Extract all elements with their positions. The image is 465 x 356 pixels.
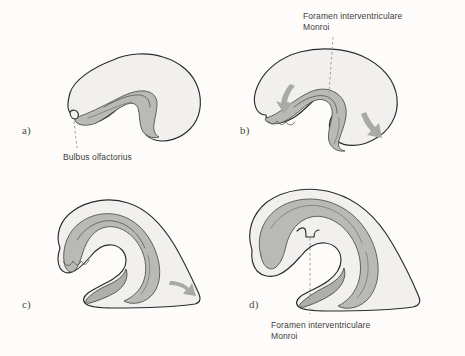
panel-letter-a: a) bbox=[22, 124, 31, 136]
figure-canvas bbox=[0, 0, 465, 356]
panel-a-olfactory-bulb bbox=[70, 110, 78, 119]
annotation-foramen-b-line2: Monroi bbox=[303, 22, 330, 34]
panel-letter-b: b) bbox=[240, 124, 250, 136]
annotation-foramen-d-line1: Foramen interventriculare bbox=[271, 320, 370, 332]
anatomy-figure: a) Bulbus olfactorius b) Foramen interve… bbox=[0, 0, 465, 356]
panel-c-drawing bbox=[58, 200, 200, 308]
panel-letter-d: d) bbox=[249, 298, 259, 310]
panel-a-leader-line bbox=[74, 121, 77, 148]
panel-d-drawing bbox=[250, 189, 420, 314]
annotation-bulbus-olfactorius: Bulbus olfactorius bbox=[63, 152, 132, 164]
annotation-foramen-d-line2: Monroi bbox=[271, 331, 298, 343]
panel-a-drawing bbox=[68, 54, 200, 148]
annotation-foramen-b-line1: Foramen interventriculare bbox=[303, 11, 402, 23]
panel-letter-c: c) bbox=[22, 298, 31, 310]
panel-b-drawing bbox=[255, 37, 398, 151]
